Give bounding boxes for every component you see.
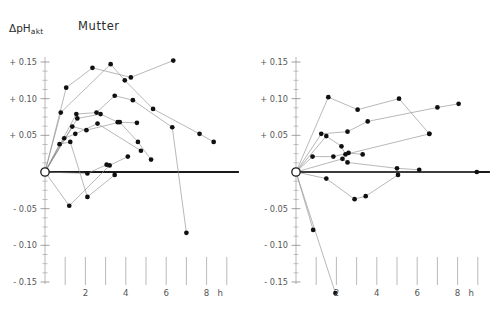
data-point (324, 134, 329, 139)
y-tick-label: + 0.05 (3, 130, 37, 140)
data-point (95, 121, 100, 126)
series-line-f8 (296, 172, 335, 293)
data-point (57, 142, 62, 147)
figure-root: ΔpHakt Mutter Fetus + 0.15+ 0.10+ 0.05- … (0, 0, 504, 311)
data-point (136, 140, 141, 145)
data-point (84, 128, 89, 133)
y-tick-label: - 0.05 (3, 204, 37, 214)
data-point (85, 171, 90, 176)
data-point (70, 124, 75, 129)
data-point (139, 148, 144, 153)
y-tick-label: - 0.10 (3, 240, 37, 250)
data-point (352, 197, 357, 202)
y-tick-label: + 0.15 (254, 57, 288, 67)
x-axis-unit-label: h (469, 288, 474, 298)
series-line-m1 (45, 61, 173, 172)
data-point (125, 154, 130, 159)
y-tick-label: + 0.10 (254, 94, 288, 104)
data-point (417, 167, 422, 172)
x-tick-label: 6 (410, 288, 424, 298)
data-point (211, 140, 216, 145)
data-point (122, 78, 127, 83)
data-point (310, 154, 315, 159)
data-point (395, 166, 400, 171)
data-point (474, 170, 479, 175)
data-point (131, 98, 136, 103)
data-point (171, 58, 176, 63)
data-point (67, 203, 72, 208)
x-axis-unit-label: h (218, 288, 223, 298)
series-line-m3 (45, 96, 186, 233)
x-tick-label: 2 (78, 288, 92, 298)
data-point (326, 95, 331, 100)
data-point (151, 107, 156, 112)
chart-canvas (0, 0, 504, 311)
data-point (427, 132, 432, 137)
data-point (108, 62, 113, 67)
series-line-f5 (296, 159, 419, 172)
data-point (435, 105, 440, 110)
data-point (397, 96, 402, 101)
data-point (73, 132, 78, 137)
x-tick-label: 4 (119, 288, 133, 298)
data-point (90, 66, 95, 71)
data-point (184, 231, 189, 236)
data-point (365, 119, 370, 124)
y-tick-label: - 0.10 (254, 240, 288, 250)
data-point (62, 136, 67, 141)
data-point (355, 107, 360, 112)
data-point (363, 194, 368, 199)
y-tick-label: + 0.10 (3, 94, 37, 104)
data-point (345, 129, 350, 134)
origin-marker (41, 168, 49, 176)
data-point (149, 157, 154, 162)
series-line-f1 (296, 97, 429, 172)
data-point (345, 160, 350, 165)
data-point (346, 151, 351, 156)
data-point (117, 120, 122, 125)
plot-group-fetus (292, 57, 490, 295)
series-line-f2 (296, 104, 459, 172)
data-point (331, 154, 336, 159)
x-tick-label: 8 (200, 288, 214, 298)
data-point (98, 112, 103, 117)
data-point (456, 101, 461, 106)
data-point (58, 110, 63, 115)
y-tick-label: - 0.15 (3, 277, 37, 287)
origin-marker (292, 168, 300, 176)
data-point (64, 85, 69, 90)
y-tick-label: - 0.15 (254, 277, 288, 287)
data-point (104, 162, 109, 167)
data-point (324, 176, 329, 181)
x-tick-label: 4 (370, 288, 384, 298)
data-point (129, 75, 134, 80)
y-tick-label: + 0.05 (254, 130, 288, 140)
data-point (85, 195, 90, 200)
series-line-f6 (296, 172, 398, 199)
data-point (319, 132, 324, 137)
data-point (360, 152, 365, 157)
data-point (74, 112, 79, 117)
series-line-m7 (45, 142, 115, 197)
data-point (68, 140, 73, 145)
data-point (170, 125, 175, 130)
data-point (197, 132, 202, 137)
data-point (135, 121, 140, 126)
data-point (340, 156, 345, 161)
x-tick-label: 8 (451, 288, 465, 298)
y-tick-label: + 0.15 (3, 57, 37, 67)
plot-group-mutter (41, 57, 239, 285)
data-point (75, 116, 80, 121)
data-point (112, 173, 117, 178)
x-tick-label: 2 (329, 288, 343, 298)
data-point (311, 228, 316, 233)
data-point (112, 93, 117, 98)
y-tick-label: - 0.05 (254, 204, 288, 214)
data-point (339, 144, 344, 149)
data-point (94, 110, 99, 115)
data-point (396, 173, 401, 178)
x-tick-label: 6 (159, 288, 173, 298)
